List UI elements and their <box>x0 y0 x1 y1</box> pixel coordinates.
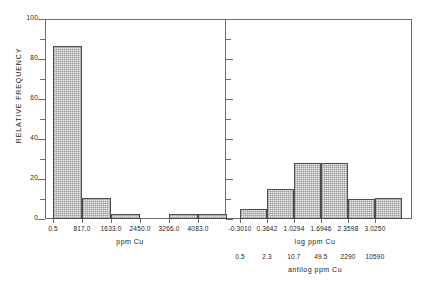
bar-right-1 <box>267 189 294 219</box>
left-x-axis-title: ppm Cu <box>105 237 155 246</box>
y-tick-mark <box>38 99 45 100</box>
x-tick-mark <box>240 219 241 223</box>
right-panel-bars <box>45 19 412 219</box>
histogram-figure: RELATIVE FREQUENCY 100 80 60 40 20 0 <box>0 0 430 286</box>
y-tick-label: 20 <box>14 175 38 182</box>
x-tick-mark <box>198 219 199 223</box>
y-tick-mark <box>38 19 45 20</box>
bar-right-4 <box>348 199 375 219</box>
bar-right-0 <box>240 209 267 219</box>
y-tick-mark <box>226 219 233 220</box>
x-tick-mark <box>375 219 376 223</box>
y-tick-label: 80 <box>14 55 38 62</box>
bar-right-5 <box>375 198 402 219</box>
y-tick-mark <box>38 219 45 220</box>
x-tick-mark <box>348 219 349 223</box>
x-tick-mark <box>140 219 141 223</box>
y-tick-mark <box>38 139 45 140</box>
x-tick-label-antilog: 10590 <box>353 253 397 261</box>
bar-right-3 <box>321 163 348 219</box>
y-tick-mark <box>38 179 45 180</box>
y-tick-mark <box>38 59 45 60</box>
x-tick-mark <box>53 219 54 223</box>
right-x-axis-secondary-title: antilog ppm Cu <box>275 265 355 274</box>
x-tick-mark <box>82 219 83 223</box>
y-tick-label: 40 <box>14 135 38 142</box>
x-tick-label: 3.0250 <box>353 225 397 233</box>
right-x-axis-title: log ppm Cu <box>282 237 348 246</box>
x-tick-mark <box>111 219 112 223</box>
y-tick-label: 0 <box>14 215 38 222</box>
x-tick-mark <box>169 219 170 223</box>
y-tick-label: 100 <box>14 15 38 22</box>
right-x-axis-labels: -0.3010 0.3642 1.0294 1.6946 2.3598 3.02… <box>0 225 430 235</box>
right-x-axis-secondary-labels: 0.5 2.3 10.7 49.5 2290 10590 <box>0 253 430 263</box>
x-tick-mark <box>267 219 268 223</box>
x-tick-mark <box>321 219 322 223</box>
bar-right-2 <box>294 163 321 219</box>
y-tick-label: 60 <box>14 95 38 102</box>
x-tick-mark <box>294 219 295 223</box>
